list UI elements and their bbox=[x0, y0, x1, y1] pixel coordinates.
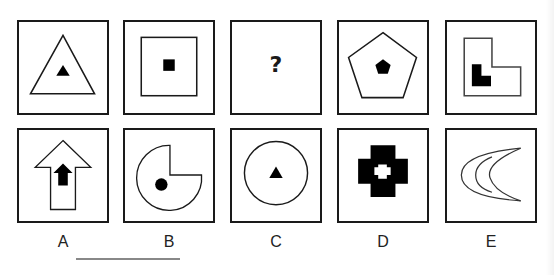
sequence-panel-2 bbox=[123, 20, 215, 115]
square-in-square-icon bbox=[125, 22, 213, 113]
sequence-panel-3-unknown: ? bbox=[230, 20, 322, 115]
pac-man-circle-icon bbox=[125, 130, 213, 221]
l-shape-in-l-shape-icon bbox=[447, 22, 535, 113]
option-a-panel[interactable] bbox=[17, 128, 109, 223]
option-a-label: A bbox=[17, 233, 109, 251]
question-mark: ? bbox=[232, 52, 320, 77]
option-c-panel[interactable] bbox=[230, 128, 322, 223]
crescent-icon bbox=[447, 130, 535, 221]
arrow-up-icon bbox=[19, 130, 107, 221]
triangle-in-triangle-icon bbox=[19, 22, 107, 113]
sequence-panel-4 bbox=[337, 20, 429, 115]
option-c-label: C bbox=[230, 233, 322, 251]
option-b-label: B bbox=[123, 233, 215, 251]
option-e-panel[interactable] bbox=[445, 128, 537, 223]
pentagon-in-pentagon-icon bbox=[339, 22, 427, 113]
filled-cross-icon bbox=[339, 130, 427, 221]
answer-underline bbox=[76, 258, 180, 260]
edge-shade bbox=[546, 0, 554, 275]
option-e-label: E bbox=[445, 233, 537, 251]
option-b-panel[interactable] bbox=[123, 128, 215, 223]
option-d-panel[interactable] bbox=[337, 128, 429, 223]
sequence-panel-1 bbox=[17, 20, 109, 115]
sequence-panel-5 bbox=[445, 20, 537, 115]
circle-with-triangle-icon bbox=[232, 130, 320, 221]
option-d-label: D bbox=[337, 233, 429, 251]
